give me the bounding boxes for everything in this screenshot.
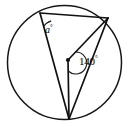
- chord-bc: [69, 18, 108, 119]
- circle-geometry-figure: a° 140°: [0, 0, 129, 127]
- central-angle-degree-symbol: °: [95, 54, 98, 62]
- radius-oc: [68, 60, 69, 119]
- inscribed-angle-label: a°: [45, 24, 53, 35]
- central-angle-label: 140°: [79, 55, 98, 67]
- inscribed-angle-degree-symbol: °: [50, 23, 53, 31]
- geometry-canvas: [0, 0, 129, 127]
- central-angle-value: 140: [79, 55, 95, 67]
- center-point-dot: [66, 58, 70, 62]
